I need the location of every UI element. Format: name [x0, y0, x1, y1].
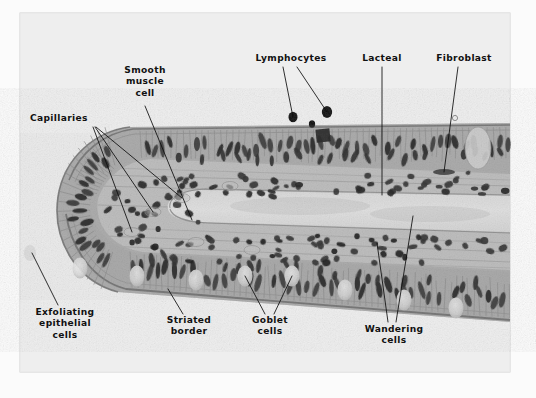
- label-line: Striated: [167, 315, 211, 325]
- label-line: epithelial: [39, 318, 91, 328]
- label-line: Smooth: [124, 65, 165, 75]
- label-line: cells: [258, 326, 283, 336]
- label-lymphocytes: Lymphocytes: [256, 53, 327, 63]
- figure-canvas: CapillariesSmoothmusclecellLymphocytesLa…: [0, 0, 536, 398]
- label-line: cells: [382, 335, 407, 345]
- label-line: muscle: [126, 76, 164, 86]
- label-line: Lacteal: [362, 53, 402, 63]
- label-line: cells: [53, 330, 78, 340]
- label-line: Wandering: [365, 324, 424, 334]
- label-capillaries: Capillaries: [30, 113, 88, 123]
- label-striated-border: Striatedborder: [167, 315, 211, 336]
- label-line: Fibroblast: [436, 53, 492, 63]
- label-line: border: [171, 326, 208, 336]
- label-line: cell: [135, 88, 154, 98]
- label-line: Capillaries: [30, 113, 88, 123]
- histology-figure: CapillariesSmoothmusclecellLymphocytesLa…: [0, 0, 536, 398]
- label-fibroblast: Fibroblast: [436, 53, 492, 63]
- label-line: Lymphocytes: [256, 53, 327, 63]
- label-line: Goblet: [252, 315, 288, 325]
- label-line: Exfoliating: [36, 307, 95, 317]
- label-lacteal: Lacteal: [362, 53, 402, 63]
